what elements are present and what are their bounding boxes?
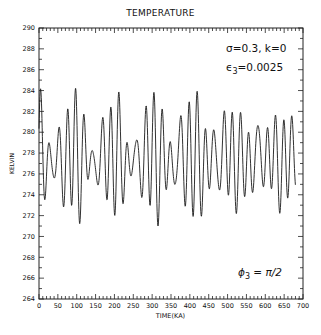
y-tick-label: 286 [23,66,35,74]
y-tick-label: 270 [23,233,35,241]
y-tick-label: 274 [23,191,35,199]
x-tick-label: 500 [221,302,233,310]
epsilon-value: =0.0025 [238,61,284,73]
phi-value: = π/2 [250,266,282,278]
x-tick-label: 450 [203,302,215,310]
y-tick-label: 266 [23,274,35,282]
x-tick-label: 200 [108,302,120,310]
y-tick-label: 280 [23,128,35,136]
x-tick-label: 550 [240,302,252,310]
x-tick-label: 700 [297,302,309,310]
x-tick-label: 100 [71,302,83,310]
x-tick-label: 150 [89,302,101,310]
x-tick-label: 50 [54,302,62,310]
y-tick-label: 268 [23,254,35,262]
temperature-series-line [39,88,295,226]
x-axis-label: TIME(KA) [0,312,321,320]
x-tick-label: 350 [165,302,177,310]
y-tick-label: 272 [23,212,35,220]
x-tick-label: 300 [146,302,158,310]
y-tick-label: 288 [23,45,35,53]
phi-symbol: ϕ [238,266,245,278]
y-tick-label: 276 [23,170,35,178]
y-tick-label: 284 [23,87,35,95]
y-axis-label: KELVIN [8,149,15,179]
x-tick-label: 650 [278,302,290,310]
y-tick-label: 278 [23,149,35,157]
x-tick-label: 400 [184,302,196,310]
annotation-phi: ϕ3 = π/2 [238,266,282,281]
x-tick-label: 600 [259,302,271,310]
x-tick-label: 250 [127,302,139,310]
annotation-epsilon: ϵ3=0.0025 [226,61,283,76]
y-tick-label: 282 [23,108,35,116]
annotation-sigma-k: σ=0.3, k=0 [226,42,286,54]
y-tick-label: 290 [23,24,35,32]
x-tick-label: 0 [37,302,41,310]
y-tick-label: 264 [23,295,35,303]
